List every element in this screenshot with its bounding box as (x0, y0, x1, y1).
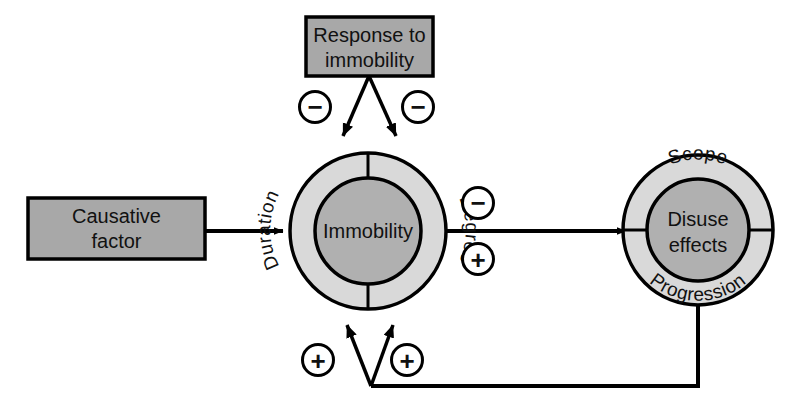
sign-middle-upper: − (463, 188, 494, 219)
sign-bottom-right-glyph: + (399, 346, 414, 376)
diagram-canvas: Causative factor Response to immobility … (0, 0, 804, 409)
node-response-to-immobility[interactable]: Response to immobility (306, 17, 433, 76)
diagram-svg: Causative factor Response to immobility … (0, 0, 804, 409)
node-causative-factor[interactable]: Causative factor (28, 198, 205, 259)
causative-factor-label-line1: Causative (72, 205, 161, 227)
sign-middle-lower-glyph: + (470, 245, 485, 275)
sign-top-right-glyph: − (410, 92, 425, 122)
sign-top-left-glyph: − (307, 92, 322, 122)
immobility-core-label: Immobility (323, 220, 413, 242)
sign-top-left: − (300, 92, 331, 123)
sign-bottom-left: + (303, 345, 334, 377)
response-to-immobility-label-line2: immobility (325, 49, 414, 71)
response-to-immobility-label-line1: Response to (313, 24, 425, 46)
sign-middle-lower: + (463, 244, 494, 276)
sign-top-right: − (403, 92, 434, 123)
disuse-effects-core-label-line2: effects (669, 234, 728, 256)
sign-middle-upper-glyph: − (470, 188, 485, 218)
causative-factor-label-line2: factor (91, 230, 141, 252)
arrow-response-to-immobility (343, 76, 396, 136)
node-disuse-effects[interactable]: Scope Progression Disuse effects (623, 142, 773, 305)
sign-bottom-right: + (392, 345, 423, 377)
disuse-effects-core (647, 179, 749, 281)
disuse-effects-core-label-line1: Disuse (667, 208, 728, 230)
sign-bottom-left-glyph: + (310, 346, 325, 376)
